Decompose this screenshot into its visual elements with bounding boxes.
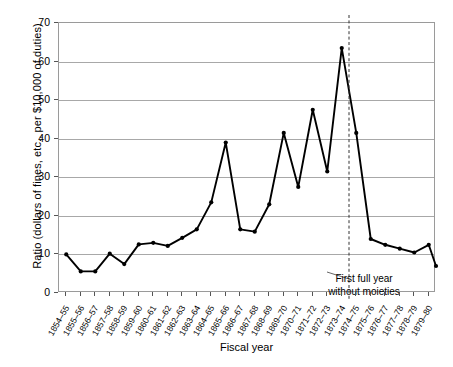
x-axis-tick [326,292,327,296]
x-axis-tick [384,292,385,296]
x-axis-tick [196,292,197,296]
x-axis-tick [399,292,400,296]
x-axis-tick [370,292,371,296]
x-axis-tick [152,292,153,296]
plot-area: First full year without moieties [58,22,435,292]
y-axis-tick [54,215,58,216]
x-axis-tick [312,292,313,296]
annotation-divider-line [59,23,436,293]
chart-figure: Ratio (dollars of fines, etc., per $10,0… [0,0,453,367]
y-axis-tick [54,61,58,62]
y-axis-tick-label: 50 [10,94,50,104]
x-axis-tick [225,292,226,296]
y-axis-tick-label: 70 [10,17,50,27]
x-axis-tick [428,292,429,296]
x-axis-tick [80,292,81,296]
x-axis-tick [94,292,95,296]
y-axis-tick [54,292,58,293]
x-axis-tick [413,292,414,296]
y-axis-tick [54,99,58,100]
x-axis-tick [181,292,182,296]
x-axis-tick [138,292,139,296]
y-axis-tick-label: 0 [10,287,50,297]
x-axis-tick [355,292,356,296]
y-axis-tick-label: 40 [10,133,50,143]
x-axis-tick [109,292,110,296]
y-axis-tick-label: 60 [10,56,50,66]
y-axis-tick [54,138,58,139]
y-axis-title: Ratio (dollars of fines, etc., per $10,0… [31,6,43,286]
y-axis-tick [54,253,58,254]
y-axis-tick-label: 30 [10,171,50,181]
y-axis-tick-label: 20 [10,210,50,220]
x-axis-tick [123,292,124,296]
x-axis-tick [65,292,66,296]
x-axis-tick [210,292,211,296]
annotation-label: First full year without moieties [305,273,423,298]
annotation-line-2: without moieties [328,286,400,297]
x-axis-title: Fiscal year [58,341,435,353]
x-axis-tick [167,292,168,296]
x-axis-tick [239,292,240,296]
x-axis-tick [341,292,342,296]
x-axis-tick [254,292,255,296]
y-axis-tick [54,22,58,23]
x-axis-tick [283,292,284,296]
x-axis-tick [297,292,298,296]
annotation-line-1: First full year [335,273,392,284]
y-axis-tick [54,176,58,177]
y-axis-tick-label: 10 [10,248,50,258]
x-axis-tick [268,292,269,296]
